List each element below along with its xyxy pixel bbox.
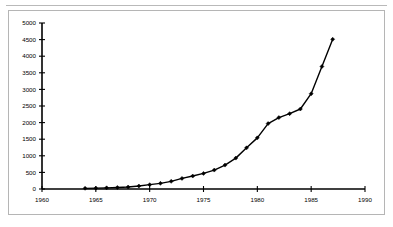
y-tick-label: 2000 [22,119,36,126]
x-tick-label: 1980 [250,196,264,203]
data-point-marker [202,171,206,175]
x-tick-label: 1965 [89,196,103,203]
chart-svg: 0500100015002000250030003500400045005000… [9,11,386,216]
page-root: 0500100015002000250030003500400045005000… [0,0,393,227]
y-tick-label: 3500 [22,69,36,76]
data-point-marker [169,179,173,183]
data-point-marker [158,181,162,185]
x-tick-label: 1985 [304,196,318,203]
data-point-marker [331,37,335,41]
y-tick-label: 3000 [22,86,36,93]
data-point-marker [148,183,152,187]
y-tick-label: 2500 [22,102,36,109]
series-1-markers [83,37,335,190]
y-tick-label: 4500 [22,36,36,43]
x-tick-label: 1975 [197,196,211,203]
y-tick-labels: 0500100015002000250030003500400045005000 [22,19,36,192]
line-chart: 0500100015002000250030003500400045005000… [9,11,386,216]
data-point-marker [180,176,184,180]
data-point-marker [191,174,195,178]
x-tick-label: 1990 [358,196,372,203]
y-tick-label: 5000 [22,19,36,26]
figure-container: 0500100015002000250030003500400045005000… [8,10,385,215]
y-tick-label: 0 [33,185,37,192]
series-1-line [85,39,333,188]
y-tick-label: 1500 [22,135,36,142]
x-tick-label: 1970 [143,196,157,203]
data-point-marker [320,64,324,68]
y-tick-label: 1000 [22,152,36,159]
data-point-marker [288,112,292,116]
top-divider [6,5,387,6]
y-tick-label: 4000 [22,52,36,59]
y-tick-label: 500 [26,169,37,176]
x-tick-labels: 1960196519701975198019851990 [35,196,372,203]
data-point-marker [137,184,141,188]
x-tick-label: 1960 [35,196,49,203]
